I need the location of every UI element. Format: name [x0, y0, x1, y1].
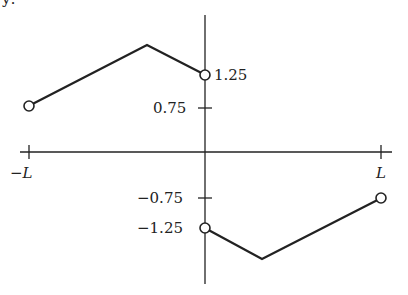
y-tick-label-neg-0.75: −0.75	[137, 189, 183, 207]
y-tick-label-neg-1.25: −1.25	[137, 219, 183, 237]
open-endpoint-right	[376, 193, 386, 203]
open-endpoint-left	[24, 101, 34, 111]
x-tick-label-L: L	[375, 164, 386, 182]
piecewise-function-plot: −L L 1.25 0.75 −0.75 −1.25	[0, 0, 408, 295]
x-tick-label-minus-L: −L	[10, 164, 33, 182]
open-endpoint-neg-1.25	[200, 223, 210, 233]
right-branch-line	[209, 200, 378, 259]
y-tick-label-0.75: 0.75	[153, 99, 186, 117]
open-endpoint-1.25	[200, 70, 210, 80]
left-branch-line	[33, 45, 202, 104]
y-tick-label-1.25: 1.25	[214, 66, 247, 84]
